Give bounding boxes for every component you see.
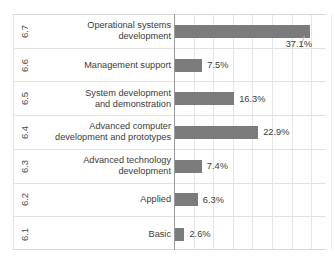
row-category-line1: Operational systems bbox=[87, 20, 171, 31]
chart-row: 6.5System developmentand demonstration16… bbox=[14, 82, 326, 116]
row-category-line1: Management support bbox=[84, 60, 171, 71]
chart-row: 6.3Advanced technologydevelopment7.4% bbox=[14, 150, 326, 184]
chart-row: 6.7Operational systemsdevelopment37.1% bbox=[14, 15, 326, 49]
chart-row: 6.4Advanced computerdevelopment and prot… bbox=[14, 116, 326, 150]
row-category-label: Management support bbox=[38, 49, 171, 82]
value-axis-line bbox=[174, 14, 175, 250]
row-code-text: 6.6 bbox=[20, 58, 31, 71]
bar bbox=[175, 228, 184, 241]
row-code-text: 6.5 bbox=[20, 92, 31, 105]
row-code-text: 6.2 bbox=[20, 193, 31, 206]
bar-value-label: 22.9% bbox=[263, 126, 289, 138]
row-category-label: Advanced computerdevelopment and prototy… bbox=[38, 116, 171, 149]
row-category-label: System developmentand demonstration bbox=[38, 82, 171, 115]
row-code-label: 6.6 bbox=[14, 49, 36, 82]
row-code-label: 6.1 bbox=[14, 217, 36, 251]
gridline bbox=[331, 15, 332, 249]
chart-row: 6.1Basic2.6% bbox=[14, 217, 326, 251]
row-category-line2: development bbox=[87, 31, 171, 42]
row-category-label: Basic bbox=[38, 217, 171, 251]
row-category-label: Operational systemsdevelopment bbox=[38, 15, 171, 48]
bar bbox=[175, 59, 202, 72]
row-category-line1: System development bbox=[85, 88, 171, 99]
row-code-label: 6.3 bbox=[14, 150, 36, 183]
chart-rows: 6.7Operational systemsdevelopment37.1%6.… bbox=[14, 15, 326, 249]
bar bbox=[175, 160, 202, 173]
row-code-label: 6.4 bbox=[14, 116, 36, 149]
bar bbox=[175, 193, 198, 206]
row-code-text: 6.4 bbox=[20, 126, 31, 139]
row-code-label: 6.5 bbox=[14, 82, 36, 115]
row-category-line2: development and prototypes bbox=[55, 132, 171, 143]
row-code-label: 6.7 bbox=[14, 15, 36, 48]
row-category-line1: Applied bbox=[140, 194, 171, 205]
row-code-text: 6.7 bbox=[20, 25, 31, 38]
bar bbox=[175, 126, 258, 139]
bar-value-label: 6.3% bbox=[203, 194, 224, 206]
row-category-label: Advanced technologydevelopment bbox=[38, 150, 171, 183]
bar-value-label: 7.5% bbox=[207, 59, 228, 71]
bar-value-label: 2.6% bbox=[189, 228, 210, 240]
row-category-line2: development bbox=[83, 166, 171, 177]
row-code-label: 6.2 bbox=[14, 184, 36, 217]
row-category-line1: Advanced technology bbox=[83, 155, 171, 166]
bar-value-label: 7.4% bbox=[207, 160, 228, 172]
row-code-text: 6.1 bbox=[20, 228, 31, 241]
bar bbox=[175, 25, 310, 38]
bar-value-label: 16.3% bbox=[239, 93, 265, 105]
chart-row: 6.2Applied6.3% bbox=[14, 184, 326, 218]
row-category-line1: Advanced computer bbox=[55, 121, 171, 132]
row-category-line1: Basic bbox=[149, 229, 171, 240]
bar bbox=[175, 92, 234, 105]
row-category-label: Applied bbox=[38, 184, 171, 217]
chart-row: 6.6Management support7.5% bbox=[14, 49, 326, 83]
horizontal-bar-chart: 6.7Operational systemsdevelopment37.1%6.… bbox=[13, 14, 326, 250]
row-code-text: 6.3 bbox=[20, 160, 31, 173]
row-category-line2: and demonstration bbox=[85, 99, 171, 110]
